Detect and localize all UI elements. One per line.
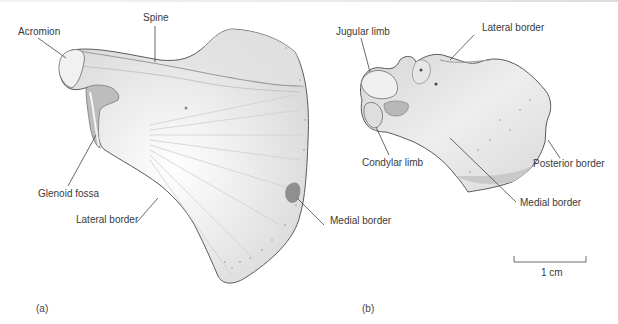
label-condylar-limb: Condylar limb bbox=[362, 157, 423, 169]
label-spine: Spine bbox=[143, 12, 169, 24]
label-posterior-border: Posterior border bbox=[533, 158, 605, 170]
label-medial-border-a: Medial border bbox=[330, 215, 391, 227]
label-lateral-border-a: Lateral border bbox=[76, 214, 138, 226]
panel-label-a: (a) bbox=[36, 303, 48, 314]
label-acromion: Acromion bbox=[18, 26, 60, 38]
bone-b bbox=[361, 54, 551, 192]
label-jugular-limb: Jugular limb bbox=[336, 26, 390, 38]
scale-bar-label: 1 cm bbox=[541, 267, 563, 279]
anatomy-illustration bbox=[0, 0, 618, 324]
scale-bar bbox=[514, 256, 586, 262]
panel-label-b: (b) bbox=[362, 303, 374, 314]
label-glenoid-fossa: Glenoid fossa bbox=[38, 188, 99, 200]
label-lateral-border-b: Lateral border bbox=[482, 22, 544, 34]
label-medial-border-b: Medial border bbox=[520, 197, 581, 209]
bone-a bbox=[59, 29, 309, 283]
